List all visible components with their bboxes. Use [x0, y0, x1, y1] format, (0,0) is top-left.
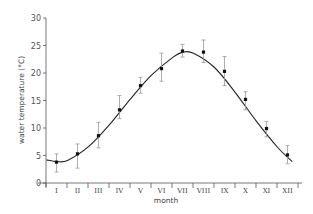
- x-tick-label: III: [94, 187, 103, 195]
- x-axis-label: month: [154, 196, 179, 205]
- x-tick-label: V: [137, 187, 144, 195]
- fitted-curve: [47, 51, 293, 162]
- x-tick-label: VI: [157, 187, 166, 195]
- point-marker: [286, 153, 289, 156]
- data-point: [265, 121, 269, 136]
- point-marker: [118, 108, 121, 111]
- data-point: [55, 154, 59, 172]
- data-point: [160, 53, 164, 81]
- point-marker: [265, 127, 268, 130]
- data-point: [286, 146, 290, 164]
- y-tick-label: 0: [36, 179, 41, 188]
- point-marker: [160, 67, 163, 70]
- x-tick-label: XI: [263, 187, 271, 195]
- fitted-curve-path: [47, 51, 293, 162]
- point-marker: [76, 152, 79, 155]
- y-axis: 051015202530: [31, 14, 46, 188]
- point-marker: [55, 161, 58, 164]
- x-tick-label: IV: [116, 187, 125, 195]
- y-tick-label: 20: [31, 69, 41, 78]
- x-tick-label: X: [243, 187, 248, 195]
- data-points: [55, 40, 290, 172]
- chart: 051015202530 IIIIIIIVVVIVIIVIIIIXXXIXII …: [0, 0, 313, 214]
- data-point: [181, 44, 185, 57]
- data-point: [139, 77, 143, 93]
- x-tick-label: II: [75, 187, 81, 195]
- y-tick-label: 10: [31, 124, 41, 133]
- y-axis-label: water temperature (°C): [17, 56, 26, 144]
- point-marker: [202, 51, 205, 54]
- y-tick-label: 30: [31, 14, 41, 23]
- point-marker: [139, 84, 142, 87]
- data-point: [118, 96, 122, 119]
- y-tick-label: 25: [31, 42, 41, 51]
- y-tick-label: 15: [31, 97, 41, 106]
- point-marker: [244, 98, 247, 101]
- point-marker: [223, 70, 226, 73]
- data-point: [97, 123, 101, 148]
- x-tick-label: I: [55, 187, 58, 195]
- point-marker: [97, 134, 100, 137]
- y-tick-label: 5: [36, 152, 41, 161]
- point-marker: [181, 49, 184, 52]
- x-tick-label: VIII: [196, 187, 211, 195]
- x-tick-label: VII: [176, 187, 188, 195]
- data-point: [244, 92, 248, 110]
- x-tick-label: XII: [282, 187, 293, 195]
- x-axis: IIIIIIIVVVIVIIVIIIIXXXIXII: [38, 183, 302, 195]
- x-tick-label: IX: [221, 187, 229, 195]
